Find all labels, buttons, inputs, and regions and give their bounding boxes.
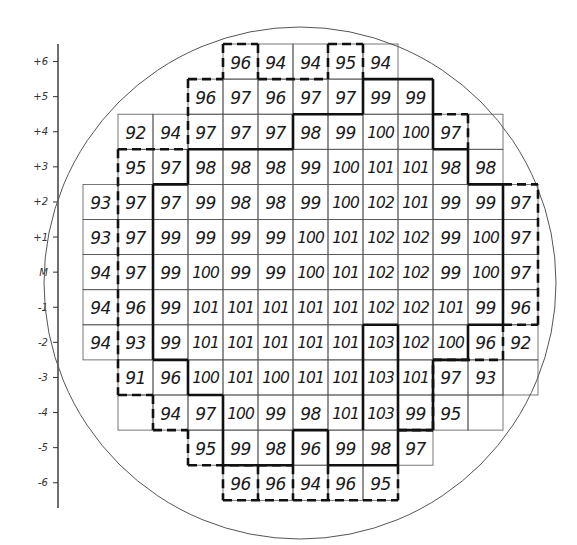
die-value: 98 [370, 439, 391, 459]
die-value: 101 [437, 299, 464, 317]
die-value: 99 [300, 193, 321, 213]
y-axis-label: -6 [38, 477, 48, 488]
die-value: 101 [367, 159, 394, 177]
die-value: 94 [370, 53, 391, 73]
die-value: 99 [195, 193, 216, 213]
die-value: 103 [367, 334, 394, 352]
die-value: 98 [230, 193, 251, 213]
die-value: 97 [160, 193, 181, 213]
y-axis-label: +4 [33, 126, 48, 137]
y-axis-label: -5 [38, 442, 48, 453]
y-axis-label: -2 [38, 337, 48, 348]
die-value: 98 [475, 158, 496, 178]
die-value: 100 [262, 369, 290, 387]
die-value: 95 [125, 158, 146, 178]
y-axis-label: -1 [38, 302, 48, 313]
die-value: 100 [192, 369, 220, 387]
die-value: 99 [160, 298, 181, 318]
die-value: 101 [297, 299, 324, 317]
die-value: 97 [125, 263, 146, 283]
die-value: 99 [370, 88, 391, 108]
die-value: 95 [370, 474, 391, 494]
die-value: 95 [335, 53, 356, 73]
die-value: 99 [440, 263, 461, 283]
die-value: 92 [510, 333, 531, 353]
die-value: 92 [125, 123, 146, 143]
die-value: 96 [475, 333, 496, 353]
die-value: 99 [265, 228, 286, 248]
die-cell [118, 395, 153, 430]
die-value: 93 [90, 228, 111, 248]
die-value: 99 [160, 263, 181, 283]
die-value: 99 [265, 404, 286, 424]
die-grid: 9694949594969796979799999294979797989910… [83, 44, 538, 500]
die-value: 99 [230, 439, 251, 459]
die-value: 99 [160, 333, 181, 353]
die-value: 100 [297, 264, 325, 282]
die-value: 101 [192, 299, 219, 317]
die-value: 96 [160, 368, 181, 388]
y-axis-label: -4 [38, 407, 48, 418]
die-value: 98 [265, 158, 286, 178]
die-value: 100 [192, 264, 220, 282]
die-value: 100 [367, 124, 395, 142]
die-value: 99 [230, 263, 251, 283]
die-value: 101 [297, 369, 324, 387]
die-value: 97 [510, 263, 531, 283]
die-value: 96 [265, 474, 286, 494]
die-value: 99 [335, 439, 356, 459]
die-value: 97 [125, 228, 146, 248]
die-value: 96 [125, 298, 146, 318]
die-value: 101 [262, 334, 289, 352]
y-axis-label: +1 [33, 232, 48, 243]
die-value: 101 [332, 405, 359, 423]
die-value: 101 [402, 194, 429, 212]
die-value: 97 [195, 404, 216, 424]
die-value: 99 [440, 193, 461, 213]
die-cell [468, 114, 503, 149]
die-value: 100 [332, 159, 360, 177]
die-value: 100 [472, 229, 500, 247]
die-value: 101 [332, 264, 359, 282]
die-value: 100 [227, 405, 255, 423]
die-value: 94 [160, 404, 181, 424]
die-value: 101 [262, 299, 289, 317]
die-value: 100 [297, 229, 325, 247]
die-value: 96 [265, 88, 286, 108]
die-value: 97 [125, 193, 146, 213]
die-value: 101 [297, 334, 324, 352]
die-value: 101 [332, 334, 359, 352]
die-value: 102 [367, 299, 394, 317]
y-axis-label: +3 [33, 161, 48, 172]
die-value: 93 [475, 368, 496, 388]
die-value: 94 [90, 263, 111, 283]
die-value: 100 [437, 334, 465, 352]
die-value: 97 [335, 88, 356, 108]
die-value: 99 [475, 298, 496, 318]
die-value: 97 [440, 123, 461, 143]
die-value: 101 [332, 369, 359, 387]
die-value: 96 [195, 88, 216, 108]
die-value: 99 [230, 228, 251, 248]
die-value: 101 [192, 334, 219, 352]
die-value: 98 [195, 158, 216, 178]
die-value: 99 [300, 158, 321, 178]
die-value: 103 [367, 369, 394, 387]
die-value: 97 [300, 88, 321, 108]
wafer-map: +6+5+4+3+2+1M-1-2-3-4-5-6 96949495949697… [0, 0, 577, 545]
die-value: 98 [265, 193, 286, 213]
die-value: 102 [402, 229, 429, 247]
die-value: 102 [367, 229, 394, 247]
die-value: 96 [230, 474, 251, 494]
die-value: 93 [125, 333, 146, 353]
die-value: 97 [405, 439, 426, 459]
die-value: 94 [300, 53, 321, 73]
die-value: 93 [90, 193, 111, 213]
y-axis: +6+5+4+3+2+1M-1-2-3-4-5-6 [33, 44, 58, 508]
die-value: 102 [367, 264, 394, 282]
die-value: 97 [160, 158, 181, 178]
die-value: 96 [510, 298, 531, 318]
die-value: 95 [440, 404, 461, 424]
die-value: 102 [367, 194, 394, 212]
die-value: 99 [440, 228, 461, 248]
